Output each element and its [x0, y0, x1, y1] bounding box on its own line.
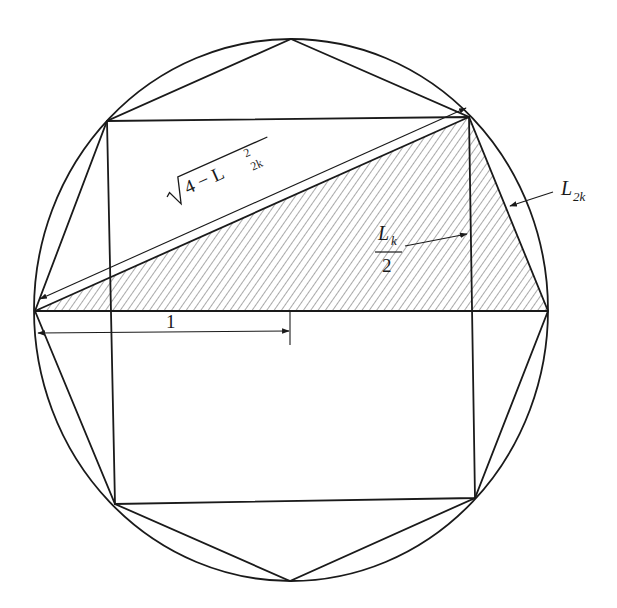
radius-dimension-arrow: [38, 331, 289, 333]
svg-text:L: L: [377, 222, 389, 244]
svg-text:L: L: [560, 177, 572, 199]
svg-text:2k: 2k: [573, 189, 586, 204]
svg-text:k: k: [391, 233, 397, 248]
radius-label: 1: [166, 311, 176, 332]
side-2k-leader-arrow: [510, 192, 553, 206]
svg-text:4 − L: 4 − L: [181, 162, 227, 198]
hypotenuse-label: 4 − L 2 2k: [161, 136, 279, 210]
svg-text:2: 2: [241, 145, 252, 160]
side-2k-label: L 2k: [560, 177, 586, 204]
diagram-canvas: 4 − L 2 2k L k 2 L 2k 1: [0, 0, 617, 608]
svg-text:2: 2: [382, 255, 392, 276]
